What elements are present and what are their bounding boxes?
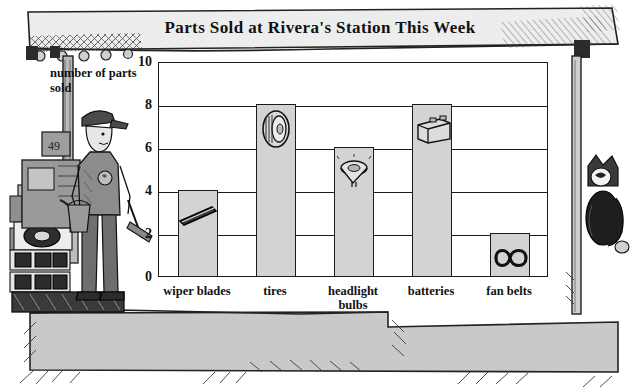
y-tick-label-0: 0 [126,269,152,285]
y-tick-label-6: 6 [126,140,152,156]
bar-icon-wrap [332,152,376,196]
tire-icon [254,109,298,149]
bar-icon-wrap [488,238,532,282]
y-tick-label-10: 10 [126,54,152,70]
battery-icon [410,109,454,149]
awning-right-post [566,56,581,314]
bar-icon-wrap [176,195,220,239]
bar-icon-wrap [410,109,454,153]
bar-chart [158,62,548,277]
y-axis-ticks: 0246810 [124,62,152,277]
plot-area [158,62,548,277]
x-label-fan-belts: fan belts [470,284,548,298]
gridline-8 [159,106,547,107]
headlight-bulb-icon [332,152,376,192]
x-label-tires: tires [236,284,314,298]
hanging-cat-figure [586,155,629,253]
x-label-headlight-bulbs: headlight bulbs [314,284,392,312]
y-tick-label-8: 8 [126,97,152,113]
gas-pump: 49 [22,132,80,232]
y-tick-label-4: 4 [126,183,152,199]
fan-belt-icon [488,238,532,278]
x-label-batteries: batteries [392,284,470,298]
bar-wiper-blades [178,190,219,276]
wiper-blade-icon [176,195,220,235]
bar-icon-wrap [254,109,298,153]
x-label-wiper-blades: wiper blades [158,284,236,298]
svg-text:49: 49 [48,139,60,153]
stacked-tires-and-batteries [10,185,124,312]
page-title: Parts Sold at Rivera's Station This Week [150,18,490,44]
station-bar-chart-illustration: 49 [0,0,640,391]
awning-lights [26,46,133,61]
pavement [20,310,618,387]
bar-headlight-bulbs [334,147,375,276]
bar-batteries [412,104,453,276]
bar-tires [256,104,297,276]
bar-fan-belts [490,233,531,276]
y-tick-label-2: 2 [126,226,152,242]
